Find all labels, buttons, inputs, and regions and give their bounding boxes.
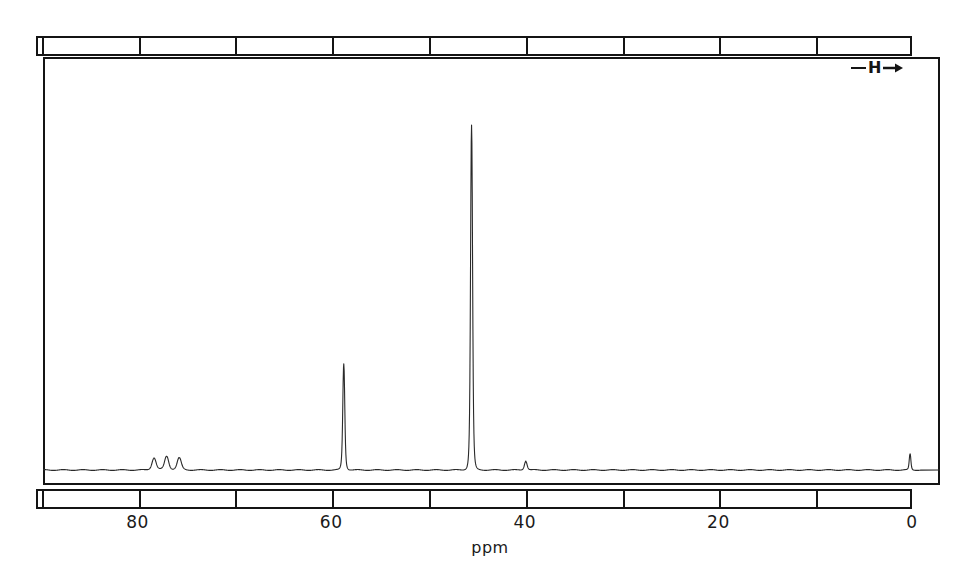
ruler-tick xyxy=(332,491,334,507)
ruler-tick xyxy=(816,38,818,54)
ruler-tick xyxy=(719,38,721,54)
nmr-spectrum-figure: H 806040200 ppm xyxy=(0,0,977,577)
axis-unit-label: ppm xyxy=(471,538,508,557)
ruler-tick xyxy=(719,491,721,507)
axis-tick-label: 0 xyxy=(906,512,917,532)
axis-tick-label: 40 xyxy=(513,512,536,532)
ruler-tick xyxy=(429,491,431,507)
sweep-line-icon xyxy=(851,67,866,70)
spectrum-trace xyxy=(43,57,940,485)
ruler-tick xyxy=(139,491,141,507)
axis-tick-label: 20 xyxy=(707,512,730,532)
ruler-tick xyxy=(139,38,141,54)
ruler-tick xyxy=(526,38,528,54)
ruler-tick xyxy=(429,38,431,54)
sweep-field-label: H xyxy=(867,60,882,76)
ruler-bottom xyxy=(36,489,912,509)
sweep-direction-marker: H xyxy=(851,60,903,76)
axis-tick-labels: 806040200 xyxy=(0,512,977,538)
ruler-tick xyxy=(235,491,237,507)
ruler-tick xyxy=(42,491,44,507)
ruler-tick xyxy=(235,38,237,54)
ruler-tick xyxy=(332,38,334,54)
ruler-tick xyxy=(816,491,818,507)
ruler-tick xyxy=(623,38,625,54)
axis-tick-label: 80 xyxy=(126,512,149,532)
ruler-tick xyxy=(42,38,44,54)
ruler-top xyxy=(36,36,912,56)
ruler-tick xyxy=(623,491,625,507)
ruler-tick xyxy=(526,491,528,507)
arrow-right-icon xyxy=(883,62,903,74)
axis-tick-label: 60 xyxy=(320,512,343,532)
